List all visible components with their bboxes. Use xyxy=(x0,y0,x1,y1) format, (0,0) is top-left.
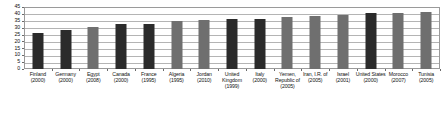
bar-chart: 051015202530354045 Finland(2000)Germany(… xyxy=(0,0,446,122)
bar[interactable] xyxy=(310,16,321,69)
bar[interactable] xyxy=(337,15,348,69)
bar[interactable] xyxy=(171,21,182,69)
bar[interactable] xyxy=(143,24,154,69)
bar-slot xyxy=(412,7,440,69)
y-axis: 051015202530354045 xyxy=(0,0,24,70)
bar[interactable] xyxy=(116,24,127,69)
y-tick-label-10: 10 xyxy=(14,52,20,57)
bar[interactable] xyxy=(282,17,293,69)
x-axis-label-year: (1999) xyxy=(215,83,249,89)
bar-slot xyxy=(107,7,135,69)
y-tick-label-0: 0 xyxy=(17,66,20,71)
bar[interactable] xyxy=(226,19,237,69)
bar[interactable] xyxy=(88,27,99,69)
y-tick-label-20: 20 xyxy=(14,39,20,44)
x-axis-label-year: (2005) xyxy=(271,83,305,89)
bar-slot xyxy=(274,7,302,69)
bar[interactable] xyxy=(60,30,71,69)
bar-slot xyxy=(79,7,107,69)
bar[interactable] xyxy=(393,13,404,69)
y-tick-label-15: 15 xyxy=(14,46,20,51)
bar-slot xyxy=(24,7,52,69)
bars-layer xyxy=(24,7,440,69)
y-tick-label-40: 40 xyxy=(14,11,20,16)
bar-slot xyxy=(246,7,274,69)
x-axis-labels: Finland(2000)Germany(2000)Egypt(2008)Can… xyxy=(24,71,440,121)
x-axis-label-year: (2005) xyxy=(409,77,443,83)
bar[interactable] xyxy=(421,12,432,69)
y-tick-mark-0 xyxy=(22,69,24,70)
y-tick-label-25: 25 xyxy=(14,32,20,37)
bar-slot xyxy=(329,7,357,69)
y-tick-label-45: 45 xyxy=(14,4,20,9)
bar-slot xyxy=(301,7,329,69)
bar[interactable] xyxy=(199,20,210,69)
bar[interactable] xyxy=(365,13,376,69)
bar-slot xyxy=(135,7,163,69)
y-tick-label-5: 5 xyxy=(17,59,20,64)
bar-slot xyxy=(385,7,413,69)
bar-slot xyxy=(163,7,191,69)
bar-slot xyxy=(190,7,218,69)
y-tick-label-35: 35 xyxy=(14,18,20,23)
bar[interactable] xyxy=(254,19,265,69)
bar-slot xyxy=(52,7,80,69)
bar[interactable] xyxy=(32,33,43,69)
x-axis-label: Tunisia(2005) xyxy=(409,71,443,83)
bar-slot xyxy=(357,7,385,69)
bar-slot xyxy=(218,7,246,69)
y-tick-label-30: 30 xyxy=(14,25,20,30)
